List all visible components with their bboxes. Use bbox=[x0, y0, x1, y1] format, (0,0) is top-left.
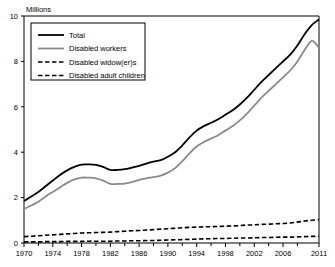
x-tick-label: 1998 bbox=[217, 249, 234, 258]
y-tick-label: 4 bbox=[14, 148, 18, 157]
chart-page: Millions 0246810 19701974197819821986199… bbox=[0, 0, 335, 267]
legend-label-0: Total bbox=[69, 31, 85, 40]
x-tick-label: 1970 bbox=[16, 249, 33, 258]
x-tick-label: 2011 bbox=[311, 249, 327, 258]
y-tick-label: 10 bbox=[10, 12, 18, 21]
y-tick-label: 6 bbox=[14, 103, 18, 112]
legend-label-1: Disabled workers bbox=[69, 44, 127, 53]
x-tick-label: 1990 bbox=[160, 249, 177, 258]
chart-legend: TotalDisabled workersDisabled widow(er)s… bbox=[31, 23, 145, 80]
legend-label-3: Disabled adult children bbox=[69, 71, 145, 80]
x-tick-label: 1986 bbox=[131, 249, 148, 258]
x-tick-label: 2002 bbox=[246, 249, 263, 258]
y-tick-label: 2 bbox=[14, 193, 18, 202]
y-tick-label: 8 bbox=[14, 57, 18, 66]
legend-label-2: Disabled widow(er)s bbox=[69, 58, 137, 67]
x-tick-label: 1978 bbox=[73, 249, 90, 258]
y-axis-unit-label: Millions bbox=[26, 5, 51, 14]
x-tick-label: 1982 bbox=[102, 249, 119, 258]
x-tick-label: 2006 bbox=[275, 249, 292, 258]
x-tick-label: 1994 bbox=[188, 249, 205, 258]
line-chart: Millions 0246810 19701974197819821986199… bbox=[0, 0, 335, 267]
x-tick-label: 1974 bbox=[44, 249, 61, 258]
y-tick-label: 0 bbox=[14, 239, 18, 248]
